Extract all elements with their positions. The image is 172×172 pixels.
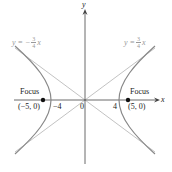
tick-right-vertex: 4 — [113, 103, 117, 111]
eq-left-lhs: y = − — [12, 38, 30, 47]
eq-left-var: x — [37, 38, 41, 47]
focus-left-coords: (−5, 0) — [18, 103, 40, 111]
focus-right-coords: (5, 0) — [128, 103, 145, 111]
origin-label: 0 — [80, 103, 84, 111]
focus-right-label: Focus — [130, 88, 149, 96]
eq-right-lhs: y = — [124, 38, 135, 47]
asymptote-right-equation: y = 3 4 x — [124, 36, 146, 49]
y-axis-label: y — [82, 1, 86, 9]
tick-left-vertex: −4 — [53, 103, 62, 111]
asymptote-left-equation: y = − 3 4 x — [12, 36, 41, 49]
x-axis-label: x — [161, 96, 165, 104]
focus-left-label: Focus — [20, 88, 39, 96]
eq-left-fraction: 3 4 — [31, 36, 36, 49]
eq-right-var: x — [142, 38, 146, 47]
eq-left-den: 4 — [32, 43, 35, 49]
eq-right-den: 4 — [137, 43, 140, 49]
eq-right-fraction: 3 4 — [136, 36, 141, 49]
hyperbola-diagram — [0, 0, 172, 172]
focus-left-point — [41, 98, 45, 102]
